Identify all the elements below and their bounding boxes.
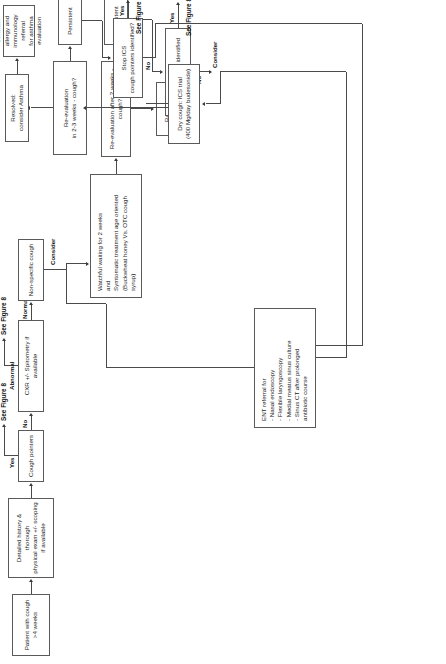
edge-consider2-split xyxy=(220,72,221,104)
ent-referral-item-4: antibiotic course xyxy=(301,315,309,421)
allergy-line-3: for asthma evaluation xyxy=(27,9,43,53)
allergy-line-2: immunology referral xyxy=(11,9,27,53)
edge-cxr-abnormal-horiz xyxy=(4,340,5,366)
edge-pointers-to-cxr xyxy=(31,415,32,430)
edge-to-ent-horiz xyxy=(106,304,107,368)
edge-ics-trial-to-reeval23-vert xyxy=(87,107,168,108)
arrowhead-to-resolved xyxy=(151,107,154,111)
edge-label-consider-1: Consider xyxy=(50,239,56,265)
arrowhead-to-nonspecific xyxy=(29,302,33,305)
watchful-line-1: Watchful waiting for 2 weeks xyxy=(96,181,104,291)
node-history-label: Detailed history & thorough physical exa… xyxy=(15,502,48,574)
edge-persistent2-left xyxy=(102,21,103,58)
edge-to-watchful-vert xyxy=(66,263,88,264)
node-cough-pointers: Cough pointers xyxy=(18,430,44,482)
edge-resolved-asthma-to-allergy xyxy=(17,60,18,74)
edge-stopics-no-up-to-ent xyxy=(316,345,362,346)
edge-ics-up-to-reeval23 xyxy=(146,103,168,104)
edge-reeval23-to-persistent2 xyxy=(70,48,71,61)
watchful-line-4: (Buckwheat honey Vs. OTC cough syrup) xyxy=(121,181,137,291)
node-reeval-2-3-weeks-cough: Re-evaluation in 2-3 weeks - cough? xyxy=(53,61,87,155)
ent-referral-item-1: - Flexible laryngoscopy xyxy=(276,315,284,421)
edge-stopics-no-long-down xyxy=(155,23,362,24)
edge-stopics-no-back xyxy=(362,24,363,346)
arrowhead-to-ics-trial xyxy=(202,102,205,106)
allergy-line-1: Consider allergy and xyxy=(0,9,11,53)
reeval23-line-2: in 2-3 weeks - cough? xyxy=(70,65,78,151)
edge-cp2-yes-horiz xyxy=(178,4,179,28)
edge-label-yes-3: Yes xyxy=(119,5,125,16)
arrowhead-reeval23-from-ics xyxy=(83,106,86,110)
ent-referral-title: ENT referral for xyxy=(260,315,268,421)
ent-referral-item-0: - Nasal endoscopy xyxy=(268,315,276,421)
edge-nonspecific-down xyxy=(44,269,66,270)
arrowhead-yes-figure8-a xyxy=(2,424,6,427)
edge-label-normal: Normal xyxy=(22,298,28,319)
watchful-line-2: and xyxy=(104,181,112,291)
arrowhead-abnormal-figure8-b xyxy=(2,338,6,341)
node-resolved-consider-asthma: Resolved: consider Asthma xyxy=(5,74,29,142)
edge-consider-split xyxy=(66,270,67,304)
edge-watchful-to-reeval xyxy=(116,160,117,174)
edge-label-no-3: No xyxy=(145,62,151,70)
edge-pointers-yes-horiz xyxy=(4,426,5,456)
watchful-line-3: Symtomatic treatment age oriented xyxy=(112,181,120,291)
node-allergy-immunology-referral: Consider allergy and immunology referral… xyxy=(3,5,35,57)
stop-ics-line-1: Stop ICS xyxy=(120,22,128,94)
node-persistent-2: Persistent xyxy=(58,0,82,45)
edge-persistent1-left xyxy=(152,20,153,72)
node-persistent-2-label: Persistent xyxy=(66,1,74,41)
edge-label-consider-2: Consider xyxy=(212,42,218,68)
arrowhead-to-history xyxy=(29,579,33,582)
edge-back-to-ent-up xyxy=(316,357,346,358)
ics-trial-line-2: (400 Mg/day budesonide) xyxy=(184,68,192,140)
edge-label-yes-2: Yes xyxy=(169,12,175,23)
arrowhead-yes-figure8-c xyxy=(176,2,180,5)
arrowhead-no-consider2 xyxy=(209,70,212,74)
edge-stopics-no-vert xyxy=(143,57,155,58)
edge-persistent2-down xyxy=(82,20,102,21)
node-ent-referral: ENT referral for - Nasal endoscopy - Fle… xyxy=(254,308,316,428)
flowchart-canvas: Patient with cough >4 weeks Detailed his… xyxy=(0,0,446,664)
node-patient-label: Patient with cough >4 weeks xyxy=(23,598,39,652)
arrowhead-to-stop-ics xyxy=(108,56,111,60)
node-nonspecific-cough: Non-specific cough xyxy=(18,239,44,301)
edge-cxr-to-nonspecific xyxy=(31,304,32,320)
arrowhead-to-persistent2 xyxy=(68,46,72,49)
link-see-figure-8-a: See Figure 8 xyxy=(1,383,7,421)
ent-referral-item-3: - Sinus CT after prolonged xyxy=(293,315,301,421)
arrowhead-to-reeval2w xyxy=(114,158,118,161)
ent-referral-item-2: - Medial meatus sinus culture xyxy=(285,315,293,421)
link-see-figure-8-d: See Figure 8 xyxy=(136,0,142,34)
edge-consider2-down-long xyxy=(220,71,346,72)
edge-history-to-pointers xyxy=(31,485,32,498)
link-see-figure-8-c: See Figure 8 xyxy=(186,0,192,36)
edge-label-abnormal: Abnormal xyxy=(9,362,15,390)
resolved-asthma-line-1: Resolved: xyxy=(9,78,17,138)
node-cxr-spirometry: CXR +/- Spirometry if available xyxy=(18,320,44,412)
arrowhead-yes-figure8-d xyxy=(126,0,130,3)
arrowhead-to-watchful xyxy=(86,262,89,266)
arrowhead-to-cxr xyxy=(29,413,33,416)
node-cough-pointers-label: Cough pointers xyxy=(27,434,35,478)
reeval23-line-1: Re-evaluation xyxy=(62,65,70,151)
edge-consider-split-right xyxy=(66,264,67,270)
node-watchful-waiting: Watchful waiting for 2 weeks and Symtoma… xyxy=(90,174,142,298)
edge-reeval-to-resolved xyxy=(131,108,153,109)
node-cxr-label: CXR +/- Spirometry if available xyxy=(23,324,39,408)
edge-persistent1-to-cp2 xyxy=(152,71,162,72)
edge-patient-to-history xyxy=(31,581,32,594)
edge-to-ent-vert xyxy=(66,303,106,304)
edge-reeval23-to-resolved-asthma xyxy=(31,107,53,108)
flowchart-page: Patient with cough >4 weeks Detailed his… xyxy=(0,0,446,664)
node-history-exam: Detailed history & thorough physical exa… xyxy=(8,498,54,578)
ics-trial-line-1: Dry cough: ICS trial xyxy=(176,68,184,140)
edge-label-no-1: No xyxy=(22,420,28,428)
edge-consider2-back-to-ent xyxy=(346,72,347,358)
arrowhead-to-pointers xyxy=(29,483,33,486)
resolved-asthma-line-2: consider Asthma xyxy=(17,78,25,138)
node-patient-with-cough: Patient with cough >4 weeks xyxy=(12,594,50,656)
edge-pointers-yes-vert xyxy=(4,455,18,456)
link-see-figure-8-b: See Figure 8 xyxy=(1,297,7,335)
edge-consider2-up xyxy=(206,103,220,104)
